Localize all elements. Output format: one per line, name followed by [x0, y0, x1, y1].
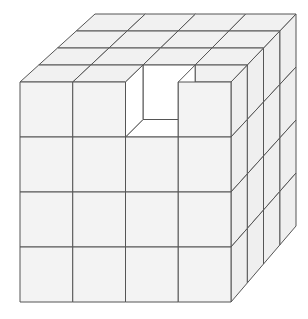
front-face-cell: [126, 192, 179, 247]
front-face-cell: [126, 247, 179, 302]
front-face-cell: [178, 82, 231, 137]
front-face-cell: [20, 82, 73, 137]
front-face-cell: [126, 137, 179, 192]
cube-diagram: [0, 0, 308, 319]
front-face-cell: [178, 192, 231, 247]
front-face-cell: [73, 192, 126, 247]
cube-drawing: [0, 0, 308, 319]
front-face-cell: [178, 137, 231, 192]
front-face-cell: [20, 137, 73, 192]
front-face-cell: [178, 247, 231, 302]
front-face-cell: [20, 247, 73, 302]
front-face-cell: [20, 192, 73, 247]
front-face-cell: [73, 82, 126, 137]
front-face-cell: [73, 247, 126, 302]
front-face-cell: [73, 137, 126, 192]
